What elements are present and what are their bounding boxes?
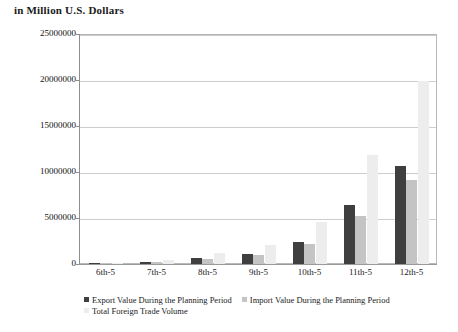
legend-swatch-icon <box>84 297 89 302</box>
x-axis-line <box>79 264 437 265</box>
y-axis-tick-label: 0 <box>2 259 76 268</box>
legend-label: Import Value During the Planning Period <box>250 295 390 306</box>
bar <box>163 260 174 264</box>
legend-row-primary: Export Value During the Planning PeriodI… <box>84 294 414 306</box>
bar <box>406 180 417 264</box>
bar <box>355 216 366 264</box>
legend-label: Total Foreign Trade Volume <box>92 306 188 317</box>
y-axis-tick-labels: 0500000010000000150000002000000025000000 <box>0 0 76 332</box>
bars-layer <box>80 34 437 264</box>
legend-swatch-icon <box>242 297 247 302</box>
bar <box>316 222 327 264</box>
bar-group <box>293 34 327 264</box>
bar <box>293 242 304 264</box>
bar <box>253 255 264 264</box>
bar-group <box>140 34 174 264</box>
legend-swatch-icon <box>84 308 89 313</box>
legend-item[interactable]: Import Value During the Planning Period <box>242 294 390 306</box>
x-axis-tick-label: 12th-5 <box>386 267 437 277</box>
bar <box>112 263 123 264</box>
bar <box>344 205 355 264</box>
y-axis-tick-label: 5000000 <box>2 213 76 222</box>
bar-group <box>191 34 225 264</box>
y-axis-tick-label: 20000000 <box>2 75 76 84</box>
bar-group <box>89 34 123 264</box>
bar-group <box>242 34 276 264</box>
bar-chart: in Million U.S. Dollars 0500000010000000… <box>0 0 458 332</box>
bar <box>89 263 100 264</box>
legend-row-secondary: Total Foreign Trade Volume <box>84 306 414 318</box>
x-axis-tick-label: 9th-5 <box>233 267 284 277</box>
y-axis-tick-label: 25000000 <box>2 29 76 38</box>
bar <box>100 263 111 264</box>
x-axis-tick-label: 10th-5 <box>284 267 335 277</box>
bar <box>367 155 378 264</box>
bar-group <box>395 34 429 264</box>
chart-legend: Export Value During the Planning PeriodI… <box>84 294 414 317</box>
bar <box>418 81 429 264</box>
bar <box>151 262 162 264</box>
legend-item[interactable]: Export Value During the Planning Period <box>84 294 232 306</box>
bar <box>214 253 225 264</box>
x-axis-tick-label: 7th-5 <box>131 267 182 277</box>
x-axis-tick-label: 8th-5 <box>182 267 233 277</box>
y-axis-tick-label: 15000000 <box>2 121 76 130</box>
bar-group <box>344 34 378 264</box>
bar <box>140 262 151 264</box>
bar <box>265 245 276 264</box>
bar <box>395 166 406 264</box>
legend-item[interactable]: Total Foreign Trade Volume <box>84 306 188 318</box>
x-axis-tick-label: 6th-5 <box>80 267 131 277</box>
y-axis-tick-label: 10000000 <box>2 167 76 176</box>
legend-label: Export Value During the Planning Period <box>92 295 232 306</box>
bar <box>242 254 253 264</box>
x-axis-tick-label: 11th-5 <box>335 267 386 277</box>
bar <box>304 244 315 264</box>
bar <box>191 258 202 264</box>
bar <box>202 259 213 264</box>
